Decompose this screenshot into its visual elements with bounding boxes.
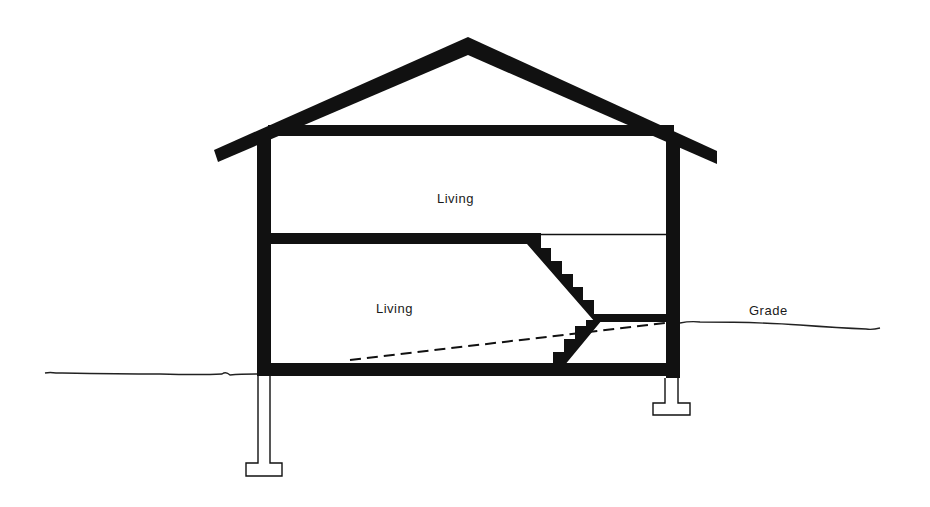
- house-section-diagram: [0, 0, 930, 507]
- left-wall: [257, 135, 271, 376]
- lower-living-label: Living: [376, 301, 413, 316]
- attic-ceiling-joist: [268, 125, 674, 136]
- right-footing: [653, 378, 690, 415]
- bottom-floor-slab: [257, 363, 680, 376]
- left-footing: [246, 376, 282, 476]
- roof-left-slope: [214, 37, 468, 162]
- grade-line-left: [45, 373, 257, 376]
- right-wall: [666, 140, 680, 378]
- grade-label: Grade: [749, 303, 788, 318]
- stair-flight-lower: [553, 320, 602, 366]
- mid-floor: [270, 233, 532, 244]
- gable-roof: [214, 37, 717, 164]
- stair-flight-upper: [527, 233, 602, 322]
- stair-landing: [598, 314, 668, 322]
- dashed-grade-projection: [350, 323, 665, 360]
- grade-line-right: [680, 322, 880, 330]
- upper-living-label: Living: [437, 191, 474, 206]
